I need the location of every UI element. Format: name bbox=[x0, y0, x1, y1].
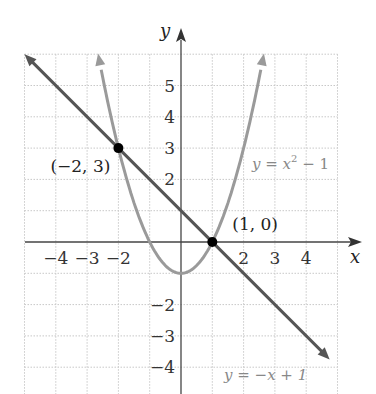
x-tick-label: −2 bbox=[106, 248, 131, 268]
point-label: (−2, 3) bbox=[50, 156, 110, 176]
point-label: (1, 0) bbox=[232, 214, 278, 234]
x-tick-label: 3 bbox=[269, 248, 280, 268]
graph: −4−3−22345432−2−3−4 x y (−2, 3)(1, 0) y … bbox=[0, 0, 376, 394]
y-tick-label: −3 bbox=[150, 326, 175, 346]
x-tick-label: −3 bbox=[75, 248, 100, 268]
arrowhead-icon bbox=[95, 53, 105, 66]
line-graph bbox=[29, 59, 325, 355]
x-axis bbox=[25, 237, 362, 247]
y-axis-label: y bbox=[159, 20, 171, 41]
y-tick-label: −2 bbox=[150, 295, 175, 315]
y-tick-label: 5 bbox=[164, 76, 175, 96]
y-tick-label: −4 bbox=[150, 357, 175, 377]
y-tick-label: 3 bbox=[164, 138, 175, 158]
line-equation-label: y = −x + 1 bbox=[223, 366, 307, 384]
intersection-point bbox=[113, 143, 123, 153]
intersection-point bbox=[207, 237, 217, 247]
y-tick-label: 4 bbox=[164, 107, 175, 127]
x-tick-label: 4 bbox=[301, 248, 312, 268]
parabola-equation-label: y = x2 − 1 bbox=[251, 153, 329, 173]
x-tick-label: 2 bbox=[238, 248, 249, 268]
y-tick-label: 2 bbox=[164, 169, 175, 189]
arrowhead-icon bbox=[257, 53, 267, 66]
x-tick-label: −4 bbox=[43, 248, 68, 268]
x-axis-label: x bbox=[350, 246, 360, 267]
